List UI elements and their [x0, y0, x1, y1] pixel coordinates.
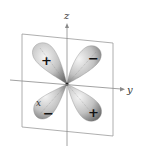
- y-arrow-icon: [120, 87, 125, 92]
- orbital-diagram: z y x + − − +: [0, 0, 141, 154]
- sign-upper-right: −: [88, 51, 99, 66]
- z-arrow-icon: [65, 23, 69, 28]
- y-axis-back: [10, 80, 22, 81]
- sign-lower-left: −: [43, 106, 54, 121]
- z-axis-label: z: [63, 10, 70, 21]
- y-axis-label: y: [126, 84, 133, 95]
- sign-lower-right: +: [88, 105, 99, 120]
- x-axis-label: x: [36, 98, 41, 108]
- sign-upper-left: +: [41, 53, 52, 68]
